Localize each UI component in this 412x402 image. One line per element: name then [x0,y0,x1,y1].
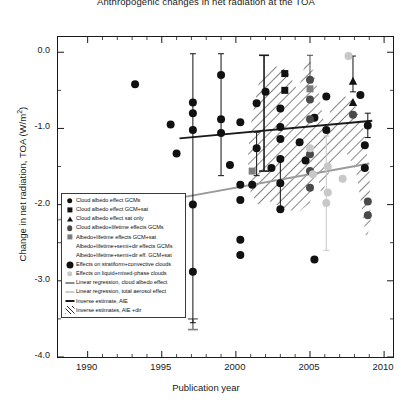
chart-title: Anthropogenic changes in net radiation a… [0,0,412,7]
data-point [349,111,357,119]
data-point [189,201,197,209]
legend-label: Albedo+lifetime+semi+dir eff. GCM+sat [76,251,172,260]
legend-line-thick-icon [63,297,76,306]
data-point [131,80,139,88]
legend-label: Cloud albedo effect GCMs [76,196,140,205]
data-point [324,163,332,171]
data-point [236,118,244,126]
data-point [364,198,372,206]
data-point [306,115,314,123]
data-point [322,126,330,134]
legend-item: Cloud albedo effect sat only [63,214,183,223]
legend-circle-icon [63,269,76,278]
data-point [306,144,314,152]
data-point [226,161,234,169]
data-point [249,168,256,175]
data-point [276,179,284,187]
data-point [267,164,275,172]
legend-circle-large-icon [63,260,76,269]
legend-item: Albedo+lifetime+semi+dir eff. GCM+sat [63,251,183,260]
data-point [306,76,314,84]
y-tick-label: -2.0 [4,198,50,208]
x-tick-label: 2010 [358,361,408,372]
y-axis-title-close: ) [17,107,28,110]
data-point [306,184,314,192]
data-point [276,205,284,213]
legend-label: Cloud albedo effect sat only [76,214,144,223]
legend-label: Effects on stratiform+convective clouds [76,260,171,269]
legend-label: Cloud albedo effect GCM+sat [76,205,148,214]
legend-square-icon [63,205,76,214]
data-point [281,87,288,94]
data-point [262,88,270,96]
x-tick-label: 2000 [210,361,260,372]
data-point [276,135,284,143]
legend-item: Inverse estimates, AIE +dir [63,306,183,315]
x-tick-label: 1990 [62,361,112,372]
data-point [339,175,347,183]
legend-item: Albedo+lifetime+semi+dir effects GCMs [63,242,183,251]
legend-none-icon [63,251,76,260]
data-point [310,255,318,263]
legend-item: Inverse estimate, AIE [63,297,183,306]
data-point [236,196,244,204]
y-tick-label: -1.0 [4,121,50,131]
data-point [322,199,330,207]
data-point [253,144,261,152]
data-point [361,164,369,172]
legend-label: Albedo+lifetime effects GCM+sat [76,233,156,242]
data-point [217,129,225,137]
data-point [306,95,314,103]
legend-item: Albedo+lifetime effects GCM+sat [63,233,183,242]
data-point [217,71,225,79]
legend-line-icon [63,287,76,296]
legend-item: Cloud albedo effect GCM+sat [63,205,183,214]
data-point [253,99,261,107]
x-tick-label: 2005 [284,361,334,372]
legend-square-icon [63,233,76,242]
data-point [236,236,244,244]
data-point [364,121,372,129]
y-tick-label: 0.0 [4,45,50,55]
data-point [345,52,353,60]
data-point [276,105,284,113]
data-point [356,91,364,99]
legend-label: Albedo+lifetime+semi+dir effects GCMs [76,242,172,251]
legend-item: Cloud albedo+lifetime effects GCMs [63,223,183,232]
legend-label: Effects on liquid+mixed-phase clouds [76,269,167,278]
legend-triangle-icon [63,214,76,223]
legend-item: Effects on stratiform+convective clouds [63,260,183,269]
x-tick-label: 1995 [136,361,186,372]
legend-item: Linear regression, total aerosol effect [63,287,183,296]
data-point [189,126,197,134]
data-point [309,170,317,178]
y-axis-title-text: Change in net radiation, TOA (W/m [17,114,28,262]
data-point [248,181,256,189]
legend-label: Inverse estimates, AIE +dir [76,306,141,315]
y-axis-title-exponent: 2 [16,110,23,114]
legend-label: Cloud albedo+lifetime effects GCMs [76,223,164,232]
data-point [306,85,313,92]
chart-legend: Cloud albedo effect GCMsCloud albedo eff… [61,193,186,318]
legend-hatch-icon [63,306,76,315]
y-tick-label: -3.0 [4,274,50,284]
legend-label: Inverse estimate, AIE [76,297,128,306]
legend-item: Cloud albedo effect GCMs [63,196,183,205]
legend-item: Effects on liquid+mixed-phase clouds [63,269,183,278]
y-tick-label: -4.0 [4,350,50,360]
legend-line-icon [63,278,76,287]
data-point [322,92,330,100]
x-axis-title: Publication year [0,382,412,393]
data-point [349,77,357,85]
y-axis-title: Change in net radiation, TOA (W/m2) [16,34,28,334]
data-point [364,211,372,219]
legend-label: Linear regression, cloud albedo effect [76,278,167,287]
legend-none-icon [63,242,76,251]
legend-label: Linear regression, total aerosol effect [76,287,166,296]
data-point [296,138,304,146]
data-point [167,121,175,129]
data-point [236,181,244,189]
data-point [217,115,225,123]
legend-item: Linear regression, cloud albedo effect [63,278,183,287]
legend-circle-icon [63,196,76,205]
